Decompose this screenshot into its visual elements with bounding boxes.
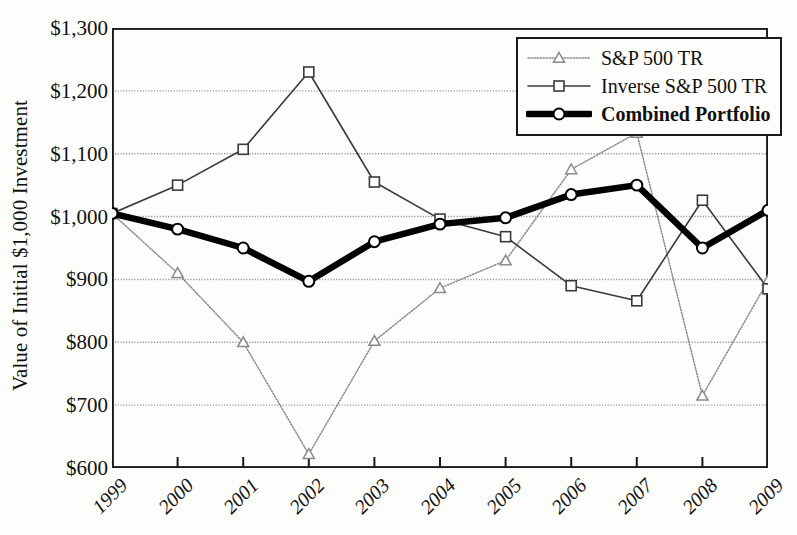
x-axis-tick-label: 2007	[596, 474, 658, 535]
x-axis-tick-label: 2003	[333, 474, 395, 535]
data-point-marker	[697, 243, 708, 254]
data-point-marker	[554, 109, 565, 120]
legend-item-combined-portfolio: Combined Portfolio	[526, 100, 770, 128]
series-s-p-500-tr	[112, 127, 768, 458]
legend-item-label: S&P 500 TR	[601, 47, 703, 70]
legend-marker-icon	[526, 76, 592, 96]
data-point-marker	[172, 268, 183, 278]
data-point-marker	[112, 208, 117, 219]
y-axis-tick-labels: $600$700$800$900$1,000$1,100$1,200$1,300	[28, 0, 112, 535]
x-axis-tick-label: 2008	[661, 474, 723, 535]
data-point-marker	[566, 281, 576, 291]
x-axis-tick-label: 2000	[136, 474, 198, 535]
x-axis-tick-label: 2002	[268, 474, 330, 535]
data-point-marker	[500, 212, 511, 223]
legend-item-inverse-s-p-500-tr: Inverse S&P 500 TR	[526, 72, 770, 100]
y-axis-tick-label: $600	[66, 456, 108, 481]
data-point-marker	[631, 180, 642, 191]
data-point-marker	[566, 164, 577, 174]
series-line	[112, 133, 768, 454]
data-point-marker	[554, 81, 564, 91]
data-point-marker	[173, 180, 183, 190]
y-axis-tick-label: $900	[66, 267, 108, 292]
y-axis-tick-label: $700	[66, 393, 108, 418]
y-axis-tick-label: $1,100	[50, 141, 108, 166]
data-point-marker	[763, 284, 768, 294]
data-point-marker	[763, 205, 768, 216]
chart-legend: S&P 500 TRInverse S&P 500 TRCombined Por…	[516, 37, 782, 136]
x-axis-tick-label: 2005	[464, 474, 526, 535]
data-point-marker	[566, 189, 577, 200]
data-point-marker	[303, 449, 314, 459]
data-point-marker	[434, 283, 445, 293]
x-axis-tick-labels: 1999200020012002200320042005200620072008…	[112, 468, 768, 535]
x-axis-tick-label: 2001	[202, 474, 264, 535]
x-axis-tick-label: 2004	[399, 474, 461, 535]
legend-marker-icon	[526, 104, 592, 124]
legend-item-label: Combined Portfolio	[601, 103, 770, 126]
y-axis-tick-label: $1,300	[50, 16, 108, 41]
y-axis-tick-label: $1,200	[50, 78, 108, 103]
data-point-marker	[501, 232, 511, 242]
data-point-marker	[435, 219, 446, 230]
data-point-marker	[632, 296, 642, 306]
legend-marker-icon	[526, 48, 592, 68]
data-point-marker	[304, 67, 314, 77]
x-axis-tick-label: 2006	[530, 474, 592, 535]
data-point-marker	[238, 243, 249, 254]
data-point-marker	[697, 195, 707, 205]
legend-item-s-p-500-tr: S&P 500 TR	[526, 44, 770, 72]
data-point-marker	[172, 224, 183, 235]
chart-container: Value of Initial $1,000 Investment $600$…	[0, 0, 797, 535]
data-point-marker	[697, 390, 708, 400]
x-axis-tick-label: 2009	[727, 474, 789, 535]
data-point-marker	[500, 255, 511, 265]
legend-item-label: Inverse S&P 500 TR	[601, 75, 767, 98]
y-axis-tick-label: $1,000	[50, 204, 108, 229]
y-axis-tick-label: $800	[66, 330, 108, 355]
data-point-marker	[369, 177, 379, 187]
data-point-marker	[238, 144, 248, 154]
data-point-marker	[303, 276, 314, 287]
data-point-marker	[369, 236, 380, 247]
series-combined-portfolio	[112, 180, 768, 287]
